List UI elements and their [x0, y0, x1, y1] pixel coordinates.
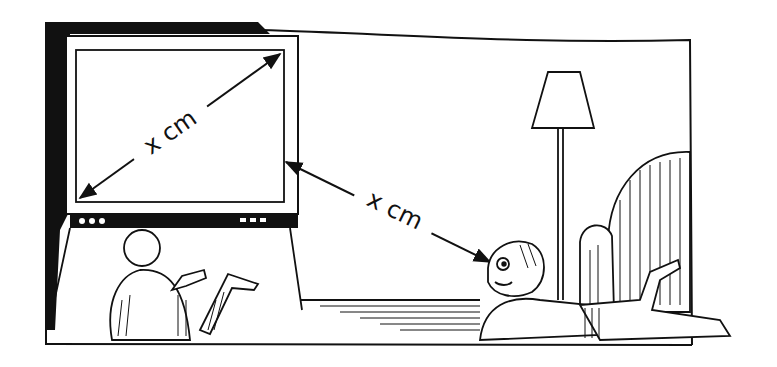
rug [300, 300, 480, 330]
child-near-tv [110, 230, 258, 340]
viewing-distance: x cm [286, 162, 490, 262]
tv: x cm [52, 36, 302, 312]
armchair [580, 152, 690, 312]
child-near-tv-head [124, 230, 160, 266]
child-viewer-head [488, 241, 544, 296]
illustration: x cm x cm [0, 0, 777, 367]
